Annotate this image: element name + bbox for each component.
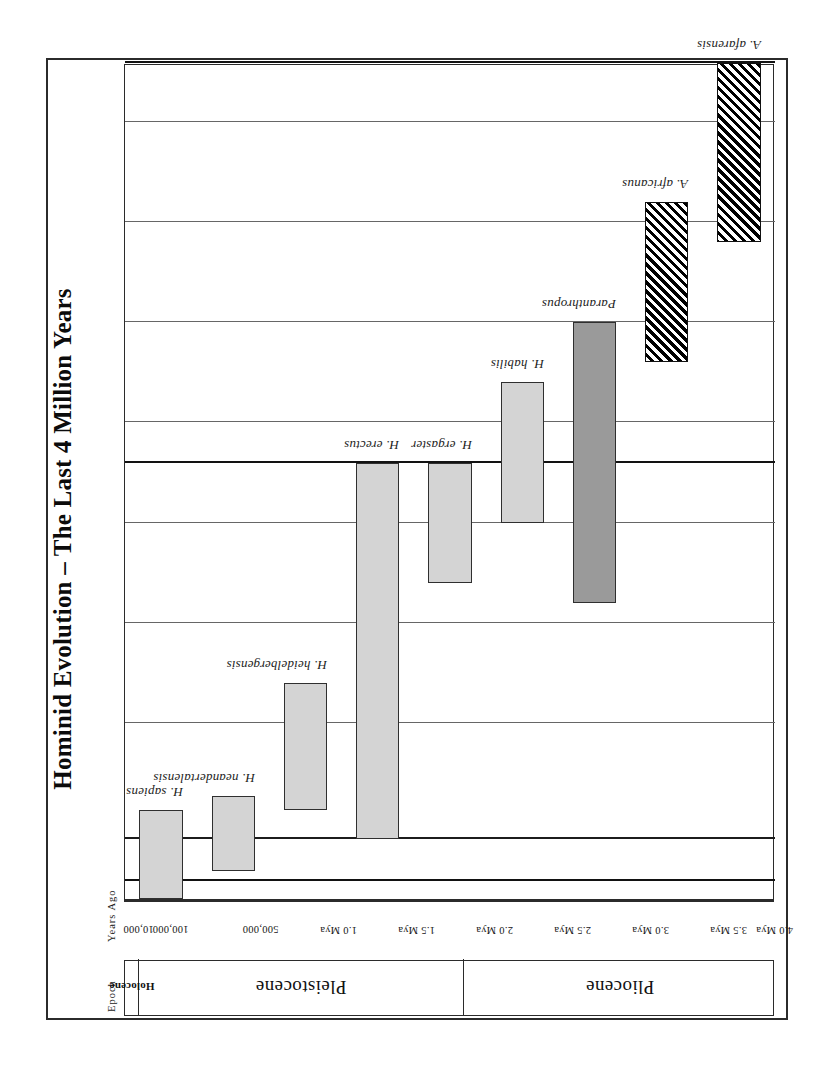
species-bar-hneandertalensis: [212, 796, 255, 872]
gridline-2-0-mya: [125, 421, 775, 422]
species-bar-hergaster: [428, 463, 471, 583]
axis-tick-10-000: 10,000: [131, 902, 145, 958]
axis-tick-2-0-mya: 2.0 Mya: [488, 902, 502, 958]
axis-tick-3-0-mya: 3.0 Mya: [644, 902, 658, 958]
species-bar-herectus: [356, 463, 399, 839]
epoch-boundary-holocene: [125, 879, 775, 881]
species-bar-paranthropus: [573, 322, 616, 603]
axis-tick-100-000: 100,000: [164, 902, 178, 958]
axis-tick-label: 500,000: [254, 902, 268, 958]
species-bar-hheidelbergensis: [284, 683, 327, 810]
axis-tick-label: 3.0 Mya: [644, 902, 658, 958]
axis-tick-label: 2.0 Mya: [488, 902, 502, 958]
species-label-aafarensis: A. afarensis: [697, 37, 761, 53]
epoch-cell-pliocene: Pliocene: [464, 959, 775, 1015]
years-ago-column: 10,000100,000500,0001.0 Mya1.5 Mya2.0 My…: [124, 902, 774, 958]
axis-tick-2-5-mya: 2.5 Mya: [566, 902, 580, 958]
epoch-name: Pliocene: [585, 976, 654, 998]
species-bar-hhabilis: [501, 382, 544, 522]
species-bar-aafarensis: [717, 63, 760, 242]
gridline-1-0-mya: [125, 622, 775, 623]
species-label-hergaster: H. ergaster: [411, 437, 472, 453]
title-band: Hominid Evolution – The Last 4 Million Y…: [46, 58, 98, 1020]
species-label-herectus: H. erectus: [344, 437, 399, 453]
epoch-name: Pleistocene: [256, 976, 347, 998]
column-header-years-ago: Years Ago: [106, 889, 117, 942]
axis-tick-label: 1.5 Mya: [410, 902, 424, 958]
rotated-figure-wrapper: Hominid Evolution – The Last 4 Million Y…: [46, 58, 788, 1020]
epoch-column: HolocenePleistocenePliocene: [124, 960, 774, 1016]
species-label-hhabilis: H. habilis: [491, 356, 544, 372]
axis-tick-label: 10,000: [131, 902, 145, 958]
epoch-cell-pleistocene: Pleistocene: [139, 959, 464, 1015]
gridline-3-5-mya: [125, 121, 775, 122]
axis-tick-500-000: 500,000: [254, 902, 268, 958]
species-label-hsapiens: H. sapiens: [126, 784, 183, 800]
epoch-cell-holocene: Holocene: [125, 959, 139, 1015]
axis-tick-1-0-mya: 1.0 Mya: [332, 902, 346, 958]
axis-tick-1-5-mya: 1.5 Mya: [410, 902, 424, 958]
plot-left-wall: [124, 900, 774, 902]
axis-tick-label: 100,000: [164, 902, 178, 958]
axis-tick-label: 3.5 Mya: [722, 902, 736, 958]
axis-tick-label: 4.0 Mya: [767, 902, 781, 958]
plot-area: H. sapiensH. neandertalensisH. heidelber…: [124, 64, 774, 900]
species-label-hneandertalensis: H. neandertalensis: [153, 770, 255, 786]
axis-tick-label: 2.5 Mya: [566, 902, 580, 958]
species-label-aafricanus: A. africanus: [622, 176, 688, 192]
species-label-paranthropus: Paranthropus: [542, 296, 616, 312]
page-title: Hominid Evolution – The Last 4 Million Y…: [46, 58, 80, 1020]
axis-tick-3-5-mya: 3.5 Mya: [722, 902, 736, 958]
axis-tick-label: 1.0 Mya: [332, 902, 346, 958]
gridline-500-000: [125, 722, 775, 723]
axis-tick-4-0-mya: 4.0 Mya: [767, 902, 781, 958]
epoch-boundary-pliocene: [125, 61, 775, 63]
species-label-hheidelbergensis: H. heidelbergensis: [227, 657, 328, 673]
species-bar-aafricanus: [645, 202, 688, 363]
species-bar-hsapiens: [139, 810, 182, 899]
